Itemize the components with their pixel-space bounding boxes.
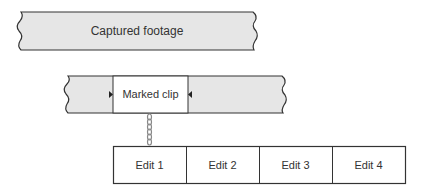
edit-cell: Edit 1 [113, 146, 186, 183]
captured-footage-label: Captured footage [21, 24, 253, 38]
edit-cell: Edit 3 [259, 146, 332, 183]
marked-clip-label: Marked clip [113, 88, 188, 100]
edit-cell: Edit 4 [332, 146, 405, 183]
edit-cell: Edit 2 [186, 146, 259, 183]
chain-link-icon [148, 114, 152, 145]
